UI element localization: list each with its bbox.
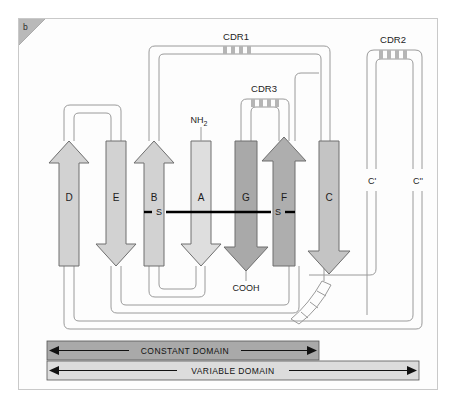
panel-label: b (23, 22, 28, 32)
n-terminus: NH2 (191, 115, 208, 141)
cdr1-loop-outer (149, 46, 330, 141)
f-top-riser (295, 73, 319, 141)
cdr2-label: CDR2 (380, 34, 406, 45)
cdr2-loop-inner (376, 59, 413, 169)
panel-corner-fold: b (19, 19, 45, 45)
strand-label-D: D (65, 192, 72, 203)
c-terminus: COOH (233, 271, 260, 293)
ab-bottom-loop-inner (159, 266, 196, 289)
figure-frame: D E B A (18, 18, 438, 390)
constant-domain-label: CONSTANT DOMAIN (141, 346, 229, 356)
de-top-loop-outer (64, 105, 121, 141)
strand-arrow-B: B (134, 141, 174, 266)
de-top-loop-inner (74, 113, 111, 141)
cdr3-label: CDR3 (251, 83, 277, 94)
cdr1-label: CDR1 (223, 31, 249, 42)
cdr2-loop-outer (367, 50, 422, 169)
cdr3-loop-inner (251, 107, 279, 141)
strand-label-G: G (242, 192, 250, 203)
cdr1-ticks (223, 46, 251, 54)
strand-arrow-D: D (49, 141, 89, 266)
n-terminus-subscript: 2 (204, 120, 208, 127)
c-prime-label: C' (368, 176, 376, 186)
n-terminus-label: NH (191, 115, 204, 125)
cdr3-ticks (251, 99, 279, 107)
strand-label-F: F (281, 192, 287, 203)
beta-strand-arrows: D E B A (49, 137, 350, 274)
strand-arrow-C: C (308, 141, 350, 274)
c-terminus-label: COOH (233, 283, 260, 293)
figure-panel: D E B A (0, 0, 458, 408)
strand-arrow-G: G (224, 141, 268, 271)
variable-domain-label: VARIABLE DOMAIN (191, 366, 274, 376)
strand-arrow-E: E (96, 141, 136, 266)
variable-domain-bar: VARIABLE DOMAIN (47, 361, 419, 380)
disulfide-s-right: S (275, 207, 281, 217)
strand-label-E: E (113, 192, 120, 203)
svg-text:NH2: NH2 (191, 115, 208, 127)
strand-label-A: A (198, 192, 205, 203)
cdr3-loop-outer (241, 99, 289, 141)
cdr-tick-marks (223, 46, 407, 107)
ab-bottom-loop-outer (149, 266, 205, 297)
hinge-ladder (291, 281, 331, 324)
disulfide-bond: S S (144, 207, 295, 217)
cdr1-loop-inner (159, 54, 321, 141)
disulfide-s-left: S (156, 207, 162, 217)
strand-label-B: B (151, 192, 158, 203)
constant-domain-bar: CONSTANT DOMAIN (47, 341, 319, 360)
strand-arrow-A: A (181, 141, 221, 266)
strand-label-C: C (325, 192, 332, 203)
immunoglobulin-fold-diagram: D E B A (19, 19, 437, 389)
c-double-prime-label: C'' (413, 176, 423, 186)
cdr2-ticks (379, 50, 407, 59)
